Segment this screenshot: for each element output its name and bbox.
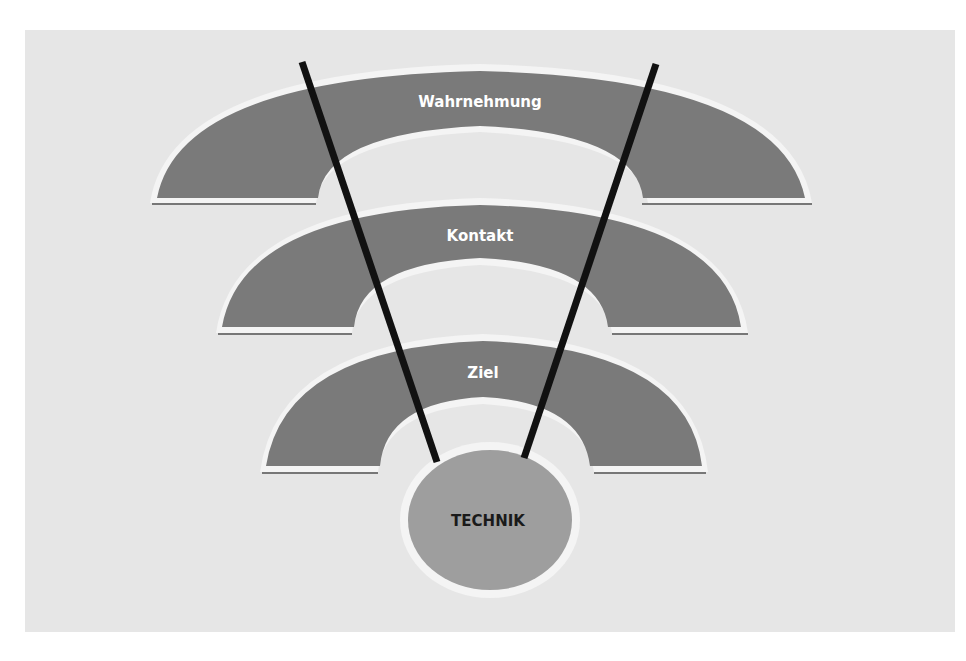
funnel-diagram: Wahrnehmung Kontakt Ziel TECHNIK <box>0 0 966 661</box>
layer-kontakt: Kontakt <box>216 198 748 334</box>
layer-wahrnehmung: Wahrnehmung <box>150 64 812 204</box>
layer-label-ziel: Ziel <box>467 364 498 382</box>
core-technik: TECHNIK <box>400 442 580 598</box>
core-label: TECHNIK <box>451 512 526 530</box>
layer-label-kontakt: Kontakt <box>447 227 514 245</box>
layer-label-wahrnehmung: Wahrnehmung <box>418 93 541 111</box>
